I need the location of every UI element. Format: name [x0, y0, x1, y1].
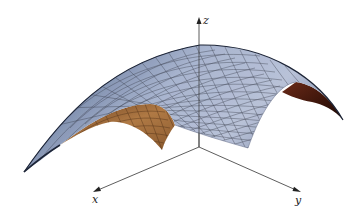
x-axis-label: x — [92, 193, 99, 206]
y-axis-label: y — [294, 194, 302, 207]
x-axis — [93, 147, 199, 192]
surface-plot: z x y — [0, 0, 364, 218]
surface-top — [24, 44, 343, 172]
z-axis-label: z — [202, 14, 209, 27]
surface-underside-right — [282, 82, 343, 120]
y-axis — [199, 147, 301, 192]
